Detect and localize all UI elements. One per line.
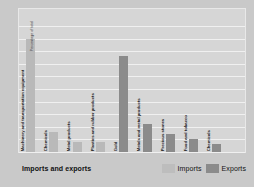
bar — [73, 142, 82, 152]
chart-legend: ImportsExports — [162, 164, 246, 173]
legend-item-exports[interactable]: Exports — [206, 164, 246, 173]
legend-label: Exports — [222, 165, 246, 172]
legend-swatch-exports — [206, 164, 219, 173]
bar-category-label: Metal products — [67, 121, 71, 151]
bar-category-label: Chemicals — [207, 130, 211, 151]
bar-category-label: Gold — [114, 141, 118, 151]
bar — [119, 56, 128, 152]
legend-item-imports[interactable]: Imports — [162, 164, 202, 173]
bars-group: Machinery and transportation equipmentCh… — [19, 9, 245, 152]
bar-category-label: Machinery and transportation equipment — [21, 70, 25, 151]
legend-label: Imports — [178, 165, 202, 172]
y-axis-title: Percentage of total — [30, 0, 34, 76]
bar — [143, 124, 152, 152]
bar — [189, 139, 198, 152]
plot-area: Machinery and transportation equipmentCh… — [18, 8, 246, 153]
bar — [166, 134, 175, 152]
bar — [96, 142, 105, 152]
bar — [49, 132, 58, 152]
chart-title: Imports and exports — [22, 165, 91, 172]
bar-category-label: Chemicals — [44, 130, 48, 151]
bar — [212, 144, 221, 152]
chart-figure: Machinery and transportation equipmentCh… — [0, 0, 254, 187]
bar-category-label: Plastics and rubber products — [90, 93, 94, 151]
bar-category-label: Precious stones — [160, 119, 164, 151]
bar-category-label: Food and tobacco — [184, 115, 188, 151]
bar-category-label: Metals and metal products — [137, 98, 141, 151]
gridline — [19, 152, 245, 153]
legend-swatch-imports — [162, 164, 175, 173]
